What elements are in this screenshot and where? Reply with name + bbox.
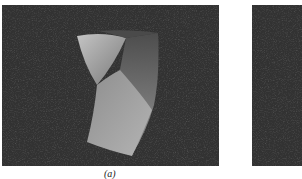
twisted-bar-render <box>2 5 219 166</box>
figure-panel-a <box>2 5 219 166</box>
panel-a-caption: (a) <box>104 168 116 179</box>
panel-b-render <box>252 5 302 166</box>
panel-background <box>252 5 302 166</box>
figure-panel-b <box>252 5 302 166</box>
